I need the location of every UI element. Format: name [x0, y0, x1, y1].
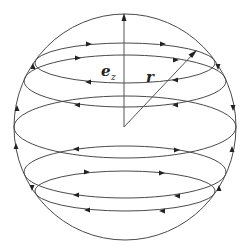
flow-arrow-left-icon — [73, 147, 79, 152]
outline-arrow-down-icon — [30, 185, 35, 191]
outline-arrow-down-icon — [216, 64, 221, 70]
r-vector-line — [124, 54, 193, 127]
flow-arrow-left-icon — [172, 78, 178, 83]
flow-arrow-left-icon — [73, 193, 79, 198]
latitude-loop-1 — [35, 43, 215, 83]
r-label: r — [146, 68, 155, 86]
flow-arrow-left-icon — [85, 80, 91, 85]
flow-arrow-left-icon — [84, 208, 90, 213]
flow-arrow-right-icon — [84, 170, 90, 175]
outline-arrow-up-icon — [217, 185, 222, 191]
flow-arrow-right-icon — [174, 148, 180, 153]
ez-label: e — [101, 62, 111, 80]
latitude-loop-2 — [24, 55, 226, 107]
latitude-loop-4 — [24, 146, 226, 198]
flow-arrow-right-icon — [86, 42, 92, 47]
latitude-loop-5 — [35, 171, 215, 211]
equator-loop — [14, 96, 236, 158]
sphere-outline — [14, 14, 236, 240]
flow-arrow-right-icon — [159, 171, 165, 176]
outline-arrow-up-icon — [14, 143, 19, 149]
flow-arrow-right-icon — [160, 42, 166, 47]
sphere-diagram: e z r — [0, 0, 247, 252]
flow-arrow-right-icon — [75, 56, 81, 61]
ez-label-subscript: z — [110, 72, 116, 82]
